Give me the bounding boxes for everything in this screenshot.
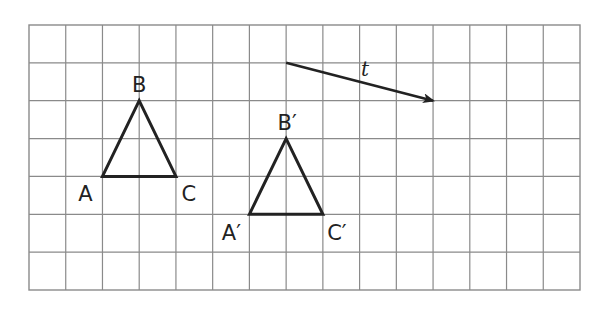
vertex-label: B <box>132 73 146 97</box>
vertex-label: A <box>78 182 93 206</box>
triangle-image: A′B′C′ <box>222 111 347 246</box>
vertex-label: B′ <box>278 111 297 135</box>
vertex-label: C′ <box>327 221 347 245</box>
vertex-label: C <box>182 182 197 206</box>
translation-diagram: ABCA′B′C′ t <box>0 0 611 310</box>
vector-label: t <box>361 57 370 81</box>
vertex-label: A′ <box>222 221 241 245</box>
triangle-original: ABC <box>78 73 196 207</box>
